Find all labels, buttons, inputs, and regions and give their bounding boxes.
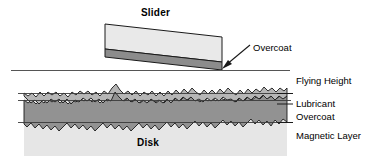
- magnetic-layer-label: Magnetic Layer: [296, 131, 361, 141]
- slider-group: [105, 24, 222, 70]
- diagram-canvas: Slider Overcoat Flying Height Lubricant …: [0, 0, 375, 156]
- lubricant-label: Lubricant: [296, 99, 335, 109]
- flying-height-label: Flying Height: [296, 76, 351, 86]
- disk-label: Disk: [137, 138, 159, 148]
- overcoat-callout-leader: [222, 45, 250, 69]
- overcoat-callout-label: Overcoat: [253, 43, 292, 53]
- slider-title-label: Slider: [141, 8, 170, 18]
- overcoat-layer-label: Overcoat: [296, 112, 335, 122]
